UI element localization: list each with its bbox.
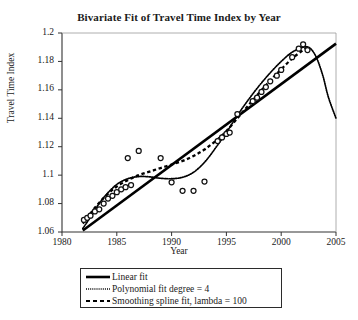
chart-container: Bivariate Fit of Travel Time Index by Ye… [0, 0, 358, 320]
data-point [235, 112, 240, 117]
data-point [180, 188, 185, 193]
data-point [97, 207, 102, 212]
data-point [136, 148, 141, 153]
legend-label-spline: Smoothing spline fit, lambda = 100 [112, 296, 247, 306]
legend-item-spline: Smoothing spline fit, lambda = 100 [85, 295, 281, 307]
legend-item-linear: Linear fit [85, 271, 281, 283]
chart-legend: Linear fit Polynomial fit degree = 4 Smo… [80, 268, 282, 308]
legend-item-polynomial: Polynomial fit degree = 4 [85, 283, 281, 295]
data-point [279, 67, 284, 72]
data-point [259, 89, 264, 94]
data-point [263, 85, 268, 90]
data-point [88, 213, 93, 218]
data-point [129, 183, 134, 188]
data-point [255, 95, 260, 100]
data-point [202, 179, 207, 184]
legend-swatch-dotted-icon [85, 284, 111, 294]
data-point [301, 42, 306, 47]
data-point [110, 193, 115, 198]
series-line [83, 44, 336, 231]
data-point [101, 201, 106, 206]
data-point [305, 48, 310, 53]
data-point [290, 55, 295, 60]
data-point [268, 79, 273, 84]
data-point [215, 139, 220, 144]
data-point [274, 73, 279, 78]
data-point [125, 156, 130, 161]
data-point [227, 130, 232, 135]
data-point [296, 46, 301, 51]
legend-swatch-dashed-icon [85, 296, 111, 306]
data-point [123, 185, 128, 190]
legend-swatch-solid-icon [85, 272, 111, 282]
data-point [191, 188, 196, 193]
legend-label-polynomial: Polynomial fit degree = 4 [112, 284, 209, 294]
data-point [220, 135, 225, 140]
data-point [158, 156, 163, 161]
legend-label-linear: Linear fit [112, 272, 148, 282]
data-point [250, 99, 255, 104]
x-axis-label: Year [0, 246, 358, 256]
data-point [169, 180, 174, 185]
